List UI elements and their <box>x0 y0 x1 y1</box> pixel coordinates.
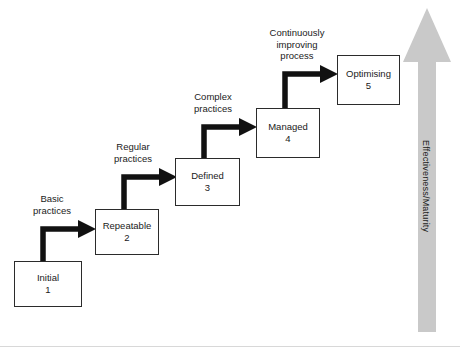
stage-box-repeatable[interactable]: Repeatable 2 <box>95 209 159 255</box>
stage-name-initial: Initial <box>37 272 59 284</box>
stage-level-optimising: 5 <box>366 80 371 92</box>
connector-managed-to-optimising <box>280 63 340 111</box>
stage-box-defined[interactable]: Defined 3 <box>175 158 240 206</box>
maturity-model-diagram: Effectiveness/Maturity Basic practices R… <box>0 0 460 347</box>
connector-defined-to-managed <box>199 116 259 164</box>
effectiveness-maturity-label: Effectiveness/Maturity <box>421 140 431 232</box>
stage-name-optimising: Optimising <box>346 68 391 80</box>
connector-repeatable-to-defined <box>119 166 179 214</box>
transition-label-continuously-improving-process: Continuously improving process <box>254 27 340 62</box>
stage-box-managed[interactable]: Managed 4 <box>256 108 320 158</box>
stage-level-defined: 3 <box>205 182 210 194</box>
stage-box-initial[interactable]: Initial 1 <box>14 261 82 307</box>
transition-label-basic-practices: Basic practices <box>20 193 84 216</box>
stage-level-initial: 1 <box>45 284 50 296</box>
stage-name-defined: Defined <box>191 170 224 182</box>
transition-label-regular-practices: Regular practices <box>101 141 165 164</box>
stage-name-managed: Managed <box>268 121 308 133</box>
transition-label-complex-practices: Complex practices <box>181 91 245 114</box>
stage-level-managed: 4 <box>285 133 290 145</box>
stage-level-repeatable: 2 <box>124 232 129 244</box>
connector-initial-to-repeatable <box>38 218 98 266</box>
stage-box-optimising[interactable]: Optimising 5 <box>337 55 400 105</box>
stage-name-repeatable: Repeatable <box>103 220 152 232</box>
